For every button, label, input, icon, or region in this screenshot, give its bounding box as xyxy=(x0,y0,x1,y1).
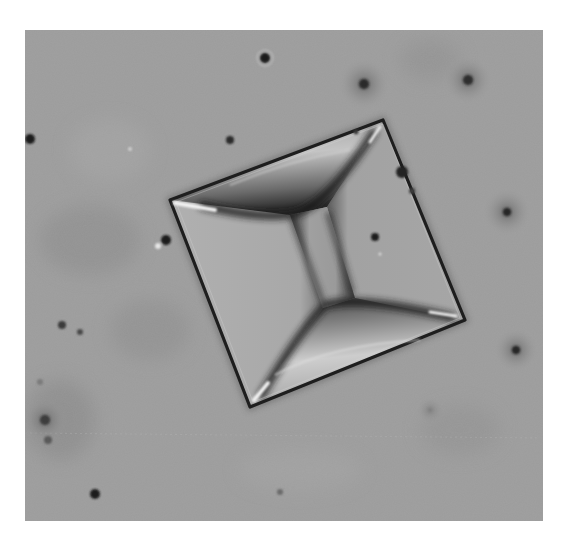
micrograph-image xyxy=(25,30,543,521)
